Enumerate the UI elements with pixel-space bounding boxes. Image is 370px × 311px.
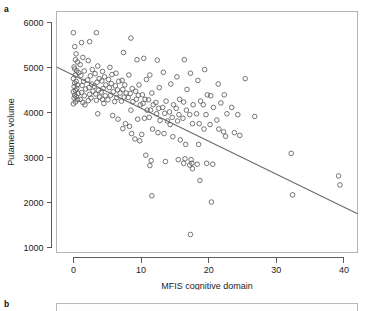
x-axis-title: MFIS cognitive domain [161, 281, 253, 291]
y-axis-title: Putamen volume [6, 98, 16, 166]
y-tick-label: 5000 [23, 63, 43, 73]
y-tick-label: 2000 [23, 198, 43, 208]
x-tick-label: 30 [271, 265, 281, 275]
plot-frame [57, 12, 358, 253]
y-tick-label: 4000 [23, 108, 43, 118]
panel-b-plot-frame [56, 303, 358, 311]
y-tick-label: 1000 [23, 243, 43, 253]
y-tick-label: 6000 [23, 18, 43, 28]
panel-b-label: b [4, 299, 9, 309]
y-tick-label: 3000 [23, 153, 43, 163]
x-tick-label: 20 [204, 265, 214, 275]
figure-container: a 100020003000400050006000010203040MFIS … [0, 0, 370, 311]
x-tick-label: 0 [71, 265, 76, 275]
x-tick-label: 10 [136, 265, 146, 275]
plot-svg-canvas: 100020003000400050006000010203040MFIS co… [0, 0, 370, 290]
x-tick-label: 40 [339, 265, 349, 275]
scatter-plot-putamen-volume: 100020003000400050006000010203040MFIS co… [0, 0, 370, 290]
